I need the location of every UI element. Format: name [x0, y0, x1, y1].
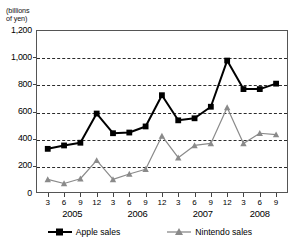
x-axis-year-label: 2005: [50, 209, 94, 219]
data-point-apple: [241, 86, 247, 92]
x-axis-month-label: 9: [266, 198, 286, 207]
legend-item-apple: Apple sales: [47, 227, 120, 237]
data-point-apple: [45, 146, 51, 152]
data-point-apple: [110, 130, 116, 136]
legend-item-nintendo: Nintendo sales: [166, 227, 252, 237]
data-point-nintendo: [93, 157, 99, 163]
chart-legend: Apple sales Nintendo sales: [0, 227, 299, 237]
data-point-apple: [143, 124, 149, 130]
x-axis-tick-mark: [195, 193, 196, 197]
x-axis-tick-mark: [260, 193, 261, 197]
data-point-nintendo: [45, 176, 51, 182]
filled-square-marker-icon: [47, 227, 73, 237]
x-axis-tick-mark: [243, 193, 244, 197]
y-axis-tick-label: 400: [0, 134, 32, 143]
y-axis-tick-label: 1,200: [0, 26, 32, 35]
x-axis-tick-mark: [178, 193, 179, 197]
x-axis-tick-mark: [64, 193, 65, 197]
data-point-apple: [257, 86, 263, 92]
data-point-nintendo: [142, 166, 148, 172]
data-point-apple: [159, 92, 165, 98]
data-point-apple: [126, 130, 132, 136]
triangle-marker-icon: [166, 227, 192, 237]
series-plot: [36, 30, 288, 193]
data-point-apple: [192, 115, 198, 121]
data-point-apple: [175, 117, 181, 123]
x-axis-tick-mark: [146, 193, 147, 197]
y-axis-tick-label: 600: [0, 107, 32, 116]
data-point-nintendo: [159, 133, 165, 139]
y-axis-tick-label: 1,000: [0, 53, 32, 62]
x-axis-tick-mark: [97, 193, 98, 197]
data-point-apple: [208, 104, 214, 110]
sales-line-chart: (billions of yen) 1,2001,000800600400200…: [0, 0, 299, 246]
y-axis-tick-label: 800: [0, 80, 32, 89]
x-axis-year-label: 2008: [238, 209, 282, 219]
x-axis-tick-mark: [80, 193, 81, 197]
legend-label-nintendo: Nintendo sales: [195, 228, 252, 237]
y-axis-tick-label: 0: [0, 189, 32, 198]
legend-label-apple: Apple sales: [76, 228, 120, 237]
x-axis-tick-mark: [113, 193, 114, 197]
x-axis-year-label: 2006: [115, 209, 159, 219]
x-axis-year-label: 2007: [181, 209, 225, 219]
x-axis-tick-mark: [276, 193, 277, 197]
data-point-apple: [224, 58, 230, 64]
data-point-nintendo: [240, 140, 246, 146]
y-axis-tick-label: 200: [0, 161, 32, 170]
data-point-apple: [61, 143, 67, 149]
x-axis-tick-mark: [211, 193, 212, 197]
x-axis-tick-mark: [48, 193, 49, 197]
data-point-apple: [77, 140, 83, 146]
data-point-apple: [94, 111, 100, 117]
x-axis-tick-mark: [227, 193, 228, 197]
x-axis-tick-mark: [129, 193, 130, 197]
data-point-apple: [273, 81, 279, 87]
data-point-nintendo: [224, 104, 230, 110]
x-axis-tick-mark: [162, 193, 163, 197]
